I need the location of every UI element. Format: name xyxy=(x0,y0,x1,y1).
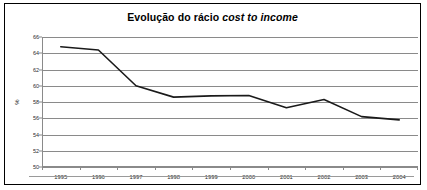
series-line xyxy=(61,47,399,120)
x-tick-label: 2000 xyxy=(242,174,255,180)
x-tick-mark xyxy=(155,167,156,170)
x-tick-label: 1995 xyxy=(54,174,67,180)
plot-area: 666462605856545250 199519961997199819992… xyxy=(42,37,418,167)
x-tick-mark xyxy=(417,167,418,170)
y-tick-label: 60 xyxy=(33,83,39,89)
y-tick-label: 66 xyxy=(33,34,39,40)
line-series xyxy=(42,37,418,167)
x-tick-label: 1999 xyxy=(205,174,218,180)
chart-title-plain: Evolução do rácio xyxy=(127,11,222,23)
x-tick-label: 2004 xyxy=(393,174,406,180)
x-tick-label: 1996 xyxy=(92,174,105,180)
y-tick-label: 54 xyxy=(33,132,39,138)
x-tick-label: 2003 xyxy=(355,174,368,180)
x-tick-mark xyxy=(268,167,269,170)
x-tick-label: 1998 xyxy=(167,174,180,180)
x-axis-baseline xyxy=(29,176,414,177)
x-tick-mark xyxy=(305,167,306,170)
x-tick-mark xyxy=(380,167,381,170)
x-tick-mark xyxy=(192,167,193,170)
x-tick-mark xyxy=(42,167,43,170)
y-tick-label: 52 xyxy=(33,148,39,154)
y-tick-label: 64 xyxy=(33,50,39,56)
y-tick-label: 50 xyxy=(33,164,39,170)
x-tick-mark xyxy=(230,167,231,170)
x-tick-mark xyxy=(343,167,344,170)
chart-frame: Evolução do rácio cost to income % 66646… xyxy=(4,3,421,185)
x-tick-label: 1997 xyxy=(130,174,143,180)
y-tick-label: 58 xyxy=(33,99,39,105)
y-axis-title: % xyxy=(14,99,20,104)
x-tick-mark xyxy=(80,167,81,170)
chart-title-italic: cost to income xyxy=(222,11,298,23)
y-tick-label: 56 xyxy=(33,115,39,121)
y-tick-label: 62 xyxy=(33,67,39,73)
x-tick-label: 2002 xyxy=(318,174,331,180)
x-tick-label: 2001 xyxy=(280,174,293,180)
chart-title: Evolução do rácio cost to income xyxy=(5,11,420,23)
x-tick-mark xyxy=(117,167,118,170)
